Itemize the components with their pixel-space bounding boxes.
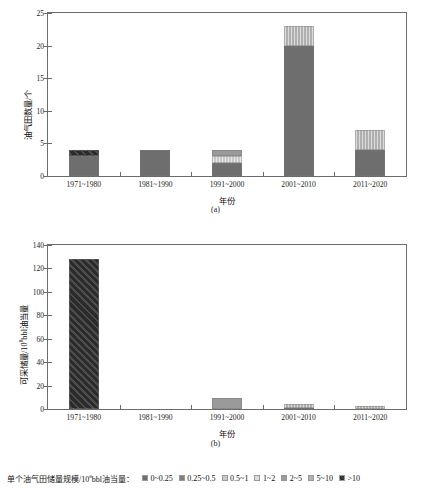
legend-label: 1~2	[263, 474, 275, 483]
y-tick-inner	[48, 386, 52, 387]
panel-caption-b: (b)	[0, 439, 431, 448]
bar-2011~2020	[355, 130, 385, 176]
y-tick-label: 15	[37, 74, 45, 83]
bar-segment	[69, 156, 99, 176]
y-tick-label: 0	[40, 405, 44, 414]
bar-2001~2010	[284, 404, 314, 409]
legend-swatch	[308, 475, 314, 481]
chart-legend: 单个油气田储量规模/108bbl油当量： 0~0.250.25~0.50.5~1…	[0, 466, 431, 490]
x-tick-label: 1971~1980	[67, 180, 101, 189]
bar-segment	[284, 26, 314, 46]
bar-1991~2000	[212, 398, 242, 409]
x-tick	[120, 405, 121, 409]
y-tick-label: 120	[33, 264, 44, 273]
bar-segment	[212, 150, 242, 157]
x-tick-label: 2001~2010	[281, 180, 315, 189]
bar-segment	[284, 404, 314, 408]
bar-segment	[355, 130, 385, 150]
bar-segment	[69, 150, 99, 157]
legend-item-2-5: 2~5	[281, 474, 302, 483]
x-tick-label: 2011~2020	[353, 413, 387, 422]
x-tick	[263, 405, 264, 409]
x-tick-label: 1981~1990	[138, 180, 172, 189]
x-tick	[334, 405, 335, 409]
bar-segment	[355, 406, 385, 409]
y-tick-label: 60	[37, 334, 45, 343]
bar-segment	[69, 259, 99, 409]
x-tick	[263, 172, 264, 176]
legend-label: 0.25~0.5	[187, 474, 215, 483]
legend-label: 2~5	[290, 474, 302, 483]
y-tick-label: 20	[37, 41, 45, 50]
x-tick-label: 1971~1980	[67, 413, 101, 422]
legend-swatch	[142, 475, 148, 481]
bar-segment	[212, 156, 242, 163]
y-tick-label: 20	[37, 381, 45, 390]
y-tick-label: 100	[33, 287, 44, 296]
x-tick	[191, 405, 192, 409]
bar-1971~1980	[69, 259, 99, 409]
bar-1991~2000	[212, 150, 242, 176]
plot-area-b: 0204060801001201401971~19801981~19901991…	[47, 244, 407, 410]
bar-2011~2020	[355, 406, 385, 410]
y-tick-inner	[48, 78, 52, 79]
plot-area-a: 05101520251971~19801981~19901991~2000200…	[47, 12, 407, 177]
bar-segment	[284, 46, 314, 176]
x-tick	[191, 172, 192, 176]
panel-b-recoverable-reserves: 0204060801001201401971~19801981~19901991…	[0, 232, 431, 460]
bar-segment	[355, 150, 385, 176]
y-tick-label: 10	[37, 106, 45, 115]
y-tick-label: 40	[37, 358, 45, 367]
y-tick-label: 25	[37, 9, 45, 18]
x-axis-title-b: 年份	[47, 427, 407, 439]
legend-item--10: >10	[339, 474, 360, 483]
x-tick-label: 2011~2020	[353, 180, 387, 189]
x-tick-label: 1981~1990	[138, 413, 172, 422]
legend-swatch	[339, 475, 345, 481]
bar-segment	[212, 398, 242, 409]
legend-item-0.25-0.5: 0.25~0.5	[179, 474, 216, 483]
x-tick	[334, 172, 335, 176]
y-tick-inner	[48, 13, 52, 14]
panel-a-oilfield-count: 05101520251971~19801981~19901991~2000200…	[0, 0, 431, 222]
y-tick-inner	[48, 362, 52, 363]
y-axis-title-b: 可采储量/108bbl油当量	[17, 305, 29, 385]
legend-label: >10	[347, 474, 360, 483]
y-tick-inner	[48, 292, 52, 293]
bar-1981~1990	[140, 150, 170, 176]
legend-label: 0.5~1	[230, 474, 248, 483]
legend-item-0.5-1: 0.5~1	[222, 474, 249, 483]
y-tick-label: 5	[40, 139, 44, 148]
legend-swatch	[281, 475, 287, 481]
y-tick-inner	[48, 111, 52, 112]
y-tick-inner	[48, 315, 52, 316]
legend-title: 单个油气田储量规模/108bbl油当量：	[7, 473, 134, 484]
legend-item-1-2: 1~2	[254, 474, 275, 483]
y-tick-label: 0	[40, 172, 44, 181]
x-tick-label: 1991~2000	[210, 413, 244, 422]
x-tick	[120, 172, 121, 176]
y-tick-inner	[48, 176, 52, 177]
y-axis-title-a: 油气田数量/个	[21, 90, 33, 140]
bar-segment	[140, 150, 170, 176]
axes-frame-a: 05101520251971~19801981~19901991~2000200…	[47, 12, 407, 177]
bar-segment	[212, 163, 242, 176]
y-tick-inner	[48, 339, 52, 340]
legend-label: 0~0.25	[150, 474, 172, 483]
legend-item-5-10: 5~10	[308, 474, 333, 483]
legend-swatch	[179, 475, 185, 481]
panel-caption-a: (a)	[0, 205, 431, 214]
x-tick-label: 2001~2010	[281, 413, 315, 422]
y-tick-label: 80	[37, 311, 45, 320]
legend-label: 5~10	[317, 474, 333, 483]
y-tick-inner	[48, 143, 52, 144]
legend-item-0-0.25: 0~0.25	[142, 474, 173, 483]
y-tick-label: 140	[33, 241, 44, 250]
y-tick-inner	[48, 245, 52, 246]
axes-frame-b: 0204060801001201401971~19801981~19901991…	[47, 244, 407, 410]
y-tick-inner	[48, 268, 52, 269]
bar-1971~1980	[69, 150, 99, 176]
legend-swatch	[222, 475, 228, 481]
legend-swatch	[254, 475, 260, 481]
legend-items: 0~0.250.25~0.50.5~11~22~55~10>10	[136, 474, 360, 483]
